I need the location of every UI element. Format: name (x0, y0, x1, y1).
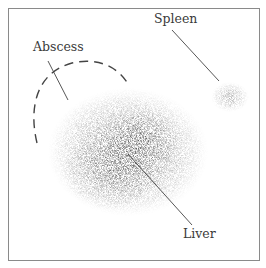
spleen-label: Spleen (154, 11, 197, 26)
spleen-uptake (211, 82, 249, 112)
spleen-leader-line (172, 30, 219, 81)
liver-label: Liver (183, 226, 216, 241)
abscess-leader-line (48, 61, 68, 100)
abscess-label: Abscess (33, 39, 84, 54)
liver-uptake (48, 88, 208, 216)
